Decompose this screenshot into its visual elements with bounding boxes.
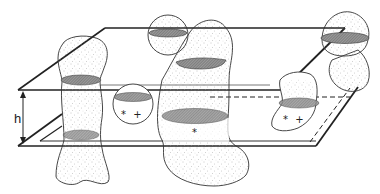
- right-upper-particle: [321, 12, 369, 92]
- central-particle-marker: *: [192, 128, 199, 138]
- small-sphere-marker: * +: [121, 110, 144, 120]
- disector-diagram: [0, 0, 380, 194]
- right-particle-marker: * +: [283, 115, 306, 125]
- left-particle: [56, 36, 109, 184]
- height-label: h: [14, 112, 21, 125]
